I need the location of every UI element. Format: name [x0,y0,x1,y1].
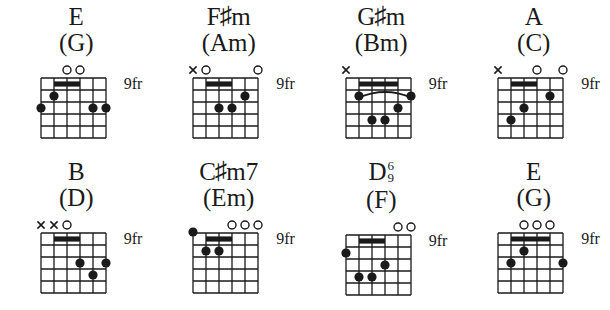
finger-dot [215,103,224,112]
chord-primary-name: B [68,159,85,184]
chord-alternate-name: (F) [366,187,397,212]
fret-position-label: 9fr [429,232,448,250]
chord-primary-name: E [69,4,84,29]
chord-primary-name: E [526,159,541,184]
open-string-marker [241,221,249,229]
chord-accidental-sharp: ♯ [220,2,233,29]
chord-name-block: A(C) [517,4,550,55]
chord-diagram: 9fr [332,217,431,301]
finger-dot [520,246,529,255]
chord-primary-name: G♯m [357,4,405,29]
open-string-marker [520,221,528,229]
finger-dot [520,103,529,112]
chord-alternate-name: (G) [59,30,94,55]
muted-string-marker [495,66,502,73]
finger-dot [36,103,45,112]
finger-dot [367,273,376,282]
chord-root: G [357,3,375,30]
chord-root: C [199,158,216,185]
chord-alternate-name: (G) [516,185,551,210]
finger-dot [354,273,363,282]
chord-card-chord-5: B(D)9fr [0,155,153,310]
open-string-marker [76,66,84,74]
chord-accidental-sharp: ♯ [374,2,387,29]
chord-card-chord-3: G♯m(Bm)9fr [305,0,458,155]
finger-dot [380,115,389,124]
fret-position-label: 9fr [429,75,448,93]
chord-chart-grid: E(G)9frF♯m(Am)9frG♯m(Bm)9frA(C)9frB(D)9f… [0,0,610,310]
chord-alternate-name: (Bm) [355,30,408,55]
chord-alternate-name: (C) [517,30,550,55]
open-string-marker [63,221,71,229]
finger-dot [507,258,516,267]
chord-extension-stack: 69 [388,160,395,184]
chord-diagram: 9fr [179,215,278,299]
chord-primary-name: D69 [368,159,394,186]
chord-alternate-name: (D) [59,185,94,210]
chord-primary-name: A [525,4,543,29]
fret-position-label: 9fr [124,75,143,93]
finger-dot [88,103,97,112]
finger-dot [49,91,58,100]
chord-primary-name: F♯m [207,4,251,29]
chord-card-chord-7: D69(F)9fr [305,155,458,310]
chord-root: B [68,158,85,185]
chord-name-block: F♯m(Am) [202,4,256,55]
chord-alternate-name: (Am) [202,30,256,55]
chord-quality: m [386,3,405,30]
chord-quality: m [231,3,250,30]
open-string-marker [407,223,415,231]
chord-accidental-sharp: ♯ [215,157,228,184]
chord-quality: m7 [226,158,258,185]
chord-alternate-name: (Em) [199,185,258,210]
open-string-marker [228,221,236,229]
muted-string-marker [190,66,197,73]
chord-diagram-svg [27,60,126,144]
chord-name-block: E(G) [516,159,551,210]
chord-diagram-svg [179,60,278,144]
chord-root: F [207,3,221,30]
open-string-marker [202,66,210,74]
above-nut-dot [189,227,198,236]
chord-root: E [69,3,84,30]
fret-position-label: 9fr [581,230,600,248]
chord-diagram-svg [179,215,278,299]
chord-card-chord-1: E(G)9fr [0,0,153,155]
finger-dot [559,258,568,267]
finger-dot [101,258,110,267]
chord-card-chord-2: F♯m(Am)9fr [153,0,306,155]
chord-diagram-svg [484,60,583,144]
finger-dot [380,261,389,270]
muted-string-marker [50,221,57,228]
open-string-marker [559,66,567,74]
chord-diagram-svg [332,217,431,301]
open-string-marker [254,66,262,74]
muted-string-marker [342,66,349,73]
finger-dot [546,91,555,100]
chord-diagram: 9fr [484,215,583,299]
chord-name-block: D69(F) [366,159,397,212]
open-string-marker [533,66,541,74]
chord-name-block: C♯m7(Em) [199,159,258,210]
finger-dot [228,103,237,112]
chord-diagram: 9fr [179,60,278,144]
open-string-marker [394,223,402,231]
finger-dot [354,91,363,100]
chord-root: A [525,3,543,30]
finger-dot [241,91,250,100]
fret-position-label: 9fr [276,75,295,93]
chord-root: E [526,158,541,185]
finger-dot [101,103,110,112]
fret-position-label: 9fr [124,230,143,248]
finger-dot [202,246,211,255]
chord-diagram: 9fr [484,60,583,144]
chord-primary-name: C♯m7 [199,159,258,184]
chord-diagram: 9fr [332,60,431,144]
chord-diagram-svg [332,60,431,144]
finger-dot [215,246,224,255]
chord-diagram-svg [484,215,583,299]
open-string-marker [254,221,262,229]
open-string-marker [546,221,554,229]
finger-dot [367,115,376,124]
chord-root: D [368,158,386,185]
